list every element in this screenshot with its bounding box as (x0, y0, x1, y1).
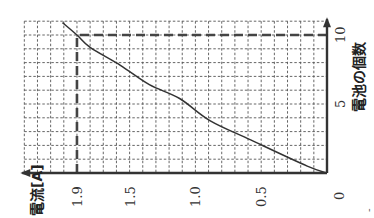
x-axis-label: 電池の個数 (351, 41, 367, 112)
origin-label: 0 (332, 192, 347, 200)
y-tick-label: 0.5 (254, 186, 269, 207)
y-tick-label: 1.9 (70, 186, 85, 207)
footer-mark: - (363, 208, 374, 212)
x-tick-label: 10 (333, 26, 348, 43)
y-axis-label: 電流[A] (29, 164, 45, 216)
y-tick-label: 1.5 (123, 186, 138, 207)
x-axis-arrow (323, 17, 331, 27)
y-tick-label: 1.0 (188, 186, 203, 207)
x-tick-label: 5 (333, 100, 348, 108)
chart: 5100.51.01.51.9 電流[A] 電池の個数 0 - (0, 0, 374, 218)
